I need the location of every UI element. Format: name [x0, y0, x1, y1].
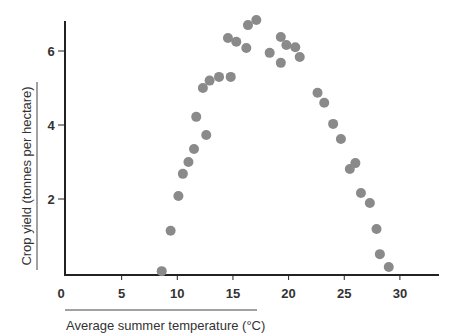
data-points: [157, 15, 394, 276]
data-point: [173, 191, 183, 201]
data-point: [201, 130, 211, 140]
y-tick-label: 2: [47, 192, 54, 207]
data-point: [183, 157, 193, 167]
data-point: [336, 134, 346, 144]
data-point: [189, 144, 199, 154]
data-point: [157, 266, 167, 276]
data-point: [243, 20, 253, 30]
data-point: [384, 262, 394, 272]
data-point: [276, 32, 286, 42]
scatter-chart: 051015202530 246 Crop yield (tonnes per …: [0, 0, 453, 336]
x-tick-label: 15: [226, 286, 240, 301]
data-point: [231, 37, 241, 47]
data-point: [350, 158, 360, 168]
data-point: [214, 72, 224, 82]
data-point: [372, 224, 382, 234]
data-point: [166, 226, 176, 236]
y-tick-label: 6: [47, 44, 54, 59]
y-axis-title: Crop yield (tonnes per hectare): [19, 86, 34, 265]
data-point: [290, 42, 300, 52]
data-point: [276, 58, 286, 68]
x-tick-label: 5: [118, 286, 125, 301]
data-point: [319, 98, 329, 108]
y-tick-label: 4: [47, 118, 55, 133]
data-point: [281, 40, 291, 50]
x-tick-label: 25: [337, 286, 351, 301]
x-tick-label: 10: [170, 286, 184, 301]
x-tick-label: 30: [393, 286, 407, 301]
data-point: [198, 83, 208, 93]
y-axis-ticks: 246: [47, 44, 65, 207]
x-axis-title: Average summer temperature (°C): [66, 318, 265, 333]
data-point: [226, 72, 236, 82]
data-point: [191, 112, 201, 122]
data-point: [205, 76, 215, 86]
data-point: [241, 43, 251, 53]
data-point: [328, 119, 338, 129]
data-point: [295, 52, 305, 62]
data-point: [265, 48, 275, 58]
data-point: [356, 188, 366, 198]
data-point: [365, 198, 375, 208]
x-tick-label: 0: [57, 286, 64, 301]
data-point: [313, 88, 323, 98]
data-point: [251, 15, 261, 25]
x-tick-label: 20: [281, 286, 295, 301]
x-axis-ticks: 051015202530: [57, 275, 407, 301]
data-point: [178, 169, 188, 179]
data-point: [375, 249, 385, 259]
